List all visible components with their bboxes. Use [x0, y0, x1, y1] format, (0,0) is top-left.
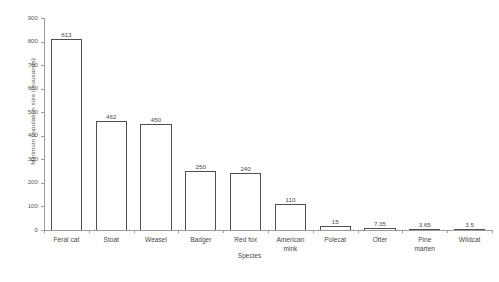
x-tick-label: Badger — [178, 236, 223, 245]
y-tick-label: 400 — [28, 131, 38, 138]
x-tick — [313, 230, 314, 233]
x-tick — [492, 230, 493, 233]
y-tick: 800 — [41, 42, 44, 43]
y-tick: 100 — [41, 206, 44, 207]
bar-value-label: 240 — [240, 165, 250, 172]
bar: 15 — [320, 226, 351, 230]
x-tick — [402, 230, 403, 233]
y-tick-label: 800 — [28, 37, 38, 44]
y-tick-label: 200 — [28, 178, 38, 185]
y-tick-label: 500 — [28, 108, 38, 115]
y-tick-label: 700 — [28, 61, 38, 68]
y-tick: 300 — [41, 159, 44, 160]
x-tick-label: Feral cat — [44, 236, 89, 245]
bar-value-label: 3.5 — [465, 221, 474, 228]
bar-value-label: 250 — [196, 163, 206, 170]
plot-area: 0100200300400500600700800900 81346245025… — [44, 18, 492, 230]
bar-value-label: 7.35 — [374, 220, 386, 227]
y-tick: 200 — [41, 183, 44, 184]
bar: 240 — [230, 173, 261, 230]
x-tick-label: Weasel — [134, 236, 179, 245]
x-tick — [89, 230, 90, 233]
bar: 462 — [96, 121, 127, 230]
y-tick-label: 300 — [28, 155, 38, 162]
bar: 110 — [275, 204, 306, 230]
y-tick-label: 0 — [35, 226, 38, 233]
y-tick: 400 — [41, 136, 44, 137]
bar-chart: Minimum population size (thousands) 0100… — [0, 0, 499, 282]
x-tick-label: Polecat — [313, 236, 358, 245]
bar: 450 — [140, 124, 171, 230]
y-tick: 500 — [41, 112, 44, 113]
bar-value-label: 813 — [61, 31, 71, 38]
x-tick-label: Red fox — [223, 236, 268, 245]
x-tick — [447, 230, 448, 233]
x-tick-label: Otter — [358, 236, 403, 245]
y-tick: 600 — [41, 89, 44, 90]
y-tick: 900 — [41, 18, 44, 19]
bar-value-label: 3.65 — [419, 221, 431, 228]
bar-value-label: 462 — [106, 113, 116, 120]
bar-value-label: 450 — [151, 116, 161, 123]
y-tick-label: 900 — [28, 14, 38, 21]
bar: 3.5 — [454, 229, 485, 230]
bar: 7.35 — [364, 228, 395, 230]
bar: 250 — [185, 171, 216, 230]
x-tick-label: Pine marten — [402, 236, 447, 253]
bar: 813 — [51, 39, 82, 231]
bar-value-label: 110 — [285, 196, 295, 203]
x-tick — [134, 230, 135, 233]
x-tick-label: Wildcat — [447, 236, 492, 245]
x-axis-label: Species — [0, 252, 499, 259]
x-tick — [44, 230, 45, 233]
x-tick — [223, 230, 224, 233]
y-tick: 700 — [41, 65, 44, 66]
y-tick-label: 100 — [28, 202, 38, 209]
x-tick-label: American mink — [268, 236, 313, 253]
x-tick — [358, 230, 359, 233]
bar: 3.65 — [409, 229, 440, 230]
bar-value-label: 15 — [332, 218, 339, 225]
y-tick-label: 600 — [28, 84, 38, 91]
y-axis-line — [44, 18, 45, 230]
x-tick — [178, 230, 179, 233]
x-tick — [268, 230, 269, 233]
x-tick-label: Stoat — [89, 236, 134, 245]
